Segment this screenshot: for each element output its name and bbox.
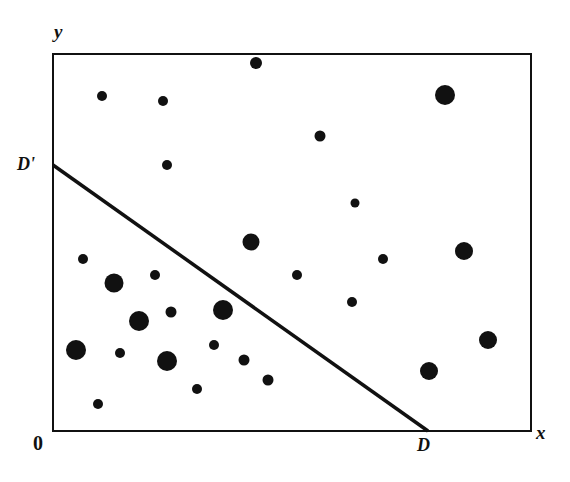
x-axis-label: x [536,423,546,442]
data-point [93,399,103,409]
data-point [115,348,125,358]
data-point [66,340,86,360]
scatter-plot-figure: y x 0 D' D [0,0,570,482]
data-point [455,242,473,260]
data-point [315,131,326,142]
plot-background [0,0,570,482]
data-point [250,57,262,69]
data-point [78,254,88,264]
data-point [192,384,202,394]
data-point [150,270,160,280]
data-point [97,91,107,101]
data-point [209,340,219,350]
plot-canvas [0,0,570,482]
line-endpoint-label-d-prime: D' [17,155,35,173]
data-point [420,362,438,380]
data-point [158,96,168,106]
data-point [166,307,177,318]
data-point [129,311,149,331]
data-point [213,300,233,320]
data-point [105,274,124,293]
line-endpoint-label-d: D [417,436,430,454]
origin-label: 0 [33,433,43,453]
data-point [243,234,260,251]
data-point [479,331,497,349]
data-point [239,355,250,366]
data-point [378,254,388,264]
data-point [263,375,274,386]
data-point [162,160,172,170]
data-point [157,351,177,371]
data-point [435,85,455,105]
y-axis-label: y [54,22,62,41]
data-point [292,270,302,280]
data-point [351,199,360,208]
data-point [347,297,357,307]
